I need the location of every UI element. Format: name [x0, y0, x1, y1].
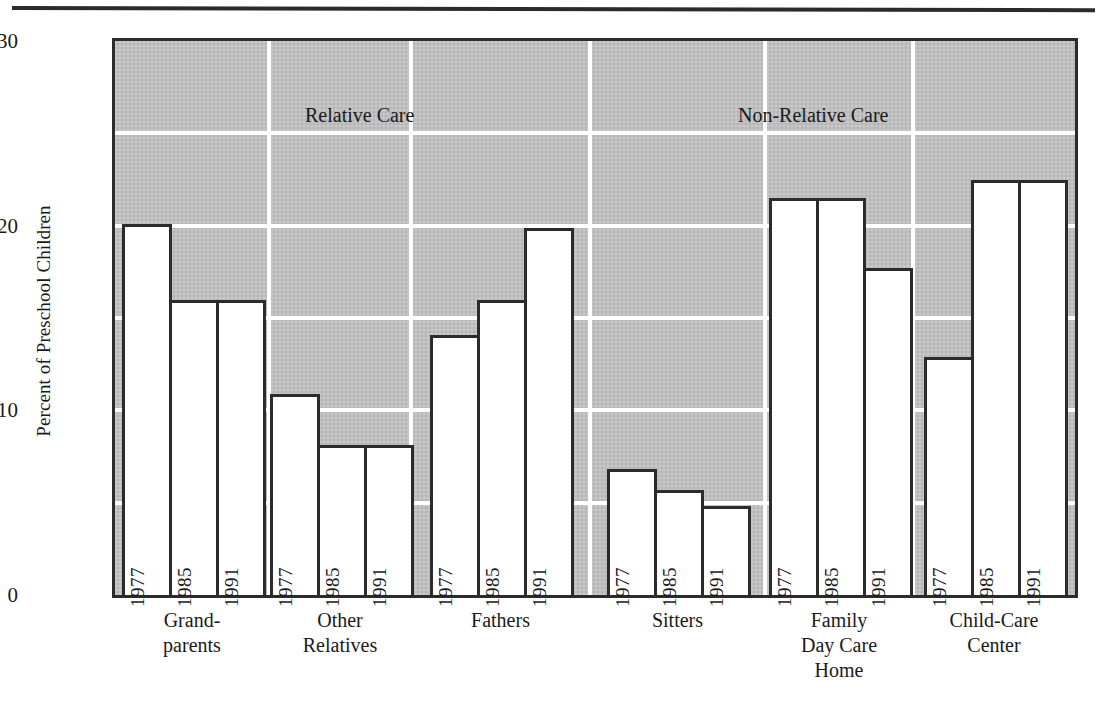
- section-caption-relative-care: Relative Care: [305, 104, 414, 127]
- x-axis-group-label-4: FamilyDay CareHome: [765, 608, 913, 683]
- bar-year-label: 1991: [869, 567, 888, 607]
- bar-5-1977: 1977: [924, 357, 974, 595]
- bar-3-1977: 1977: [607, 469, 657, 595]
- bar-year-label: 1991: [222, 567, 241, 607]
- x-axis-group-label-2: Fathers: [411, 608, 590, 633]
- bar-2-1991: 1991: [524, 228, 574, 595]
- bar-year-label: 1985: [323, 567, 342, 607]
- x-axis-group-label-line: Day Care: [765, 633, 913, 658]
- y-axis-tick-label-30: 30: [0, 31, 18, 52]
- bar-year-label: 1985: [483, 567, 502, 607]
- bar-2-1985: 1985: [477, 300, 527, 595]
- x-axis-group-label-line: Fathers: [411, 608, 590, 633]
- x-axis-group-label-1: OtherRelatives: [269, 608, 411, 658]
- bar-4-1977: 1977: [769, 198, 819, 595]
- bar-year-label: 1977: [775, 567, 794, 607]
- bar-year-label: 1977: [128, 567, 147, 607]
- bar-year-label: 1991: [707, 567, 726, 607]
- x-axis-group-label-line: Family: [765, 608, 913, 633]
- y-axis-tick-label-10: 10: [0, 400, 18, 421]
- x-axis-group-label-5: Child-CareCenter: [913, 608, 1075, 658]
- bar-3-1991: 1991: [701, 506, 751, 595]
- x-axis-group-label-line: Sitters: [590, 608, 765, 633]
- x-axis-group-label-line: Child-Care: [913, 608, 1075, 633]
- bar-year-label: 1985: [660, 567, 679, 607]
- section-caption-non-relative-care: Non-Relative Care: [738, 104, 889, 127]
- bar-year-label: 1985: [822, 567, 841, 607]
- bar-1-1985: 1985: [317, 445, 367, 595]
- bar-0-1991: 1991: [216, 300, 266, 595]
- bar-year-label: 1977: [276, 567, 295, 607]
- bar-year-label: 1991: [530, 567, 549, 607]
- vertical-gridline-3: [588, 41, 592, 595]
- bar-1-1991: 1991: [364, 445, 414, 595]
- y-axis-tick-label-0: 0: [0, 585, 18, 606]
- x-axis-group-label-0: Grand-parents: [115, 608, 269, 658]
- x-axis-group-label-line: Relatives: [269, 633, 411, 658]
- horizontal-gridline-25: [115, 131, 1075, 135]
- bar-year-label: 1985: [175, 567, 194, 607]
- bar-4-1985: 1985: [816, 198, 866, 595]
- x-axis-group-label-line: Grand-: [115, 608, 269, 633]
- bar-3-1985: 1985: [654, 490, 704, 595]
- bar-5-1985: 1985: [971, 180, 1021, 596]
- bar-0-1985: 1985: [169, 300, 219, 595]
- x-axis-group-label-line: parents: [115, 633, 269, 658]
- bar-year-label: 1985: [977, 567, 996, 607]
- horizontal-gridline-20: [115, 224, 1075, 228]
- bar-2-1977: 1977: [430, 335, 480, 595]
- x-axis-group-label-3: Sitters: [590, 608, 765, 633]
- bar-1-1977: 1977: [270, 394, 320, 595]
- bar-year-label: 1977: [930, 567, 949, 607]
- bar-0-1977: 1977: [122, 224, 172, 595]
- x-axis-group-label-line: Center: [913, 633, 1075, 658]
- bar-5-1991: 1991: [1018, 180, 1068, 596]
- bar-year-label: 1977: [613, 567, 632, 607]
- bar-year-label: 1991: [370, 567, 389, 607]
- x-axis-group-label-line: Other: [269, 608, 411, 633]
- bar-year-label: 1991: [1024, 567, 1043, 607]
- bar-4-1991: 1991: [863, 268, 913, 595]
- y-axis-tick-label-20: 20: [0, 215, 18, 236]
- bar-chart-figure: Percent of Preschool Children 3020100 19…: [0, 0, 1104, 706]
- x-axis-group-label-line: Home: [765, 658, 913, 683]
- plot-area: 1977198519911977198519911977198519911977…: [112, 38, 1078, 598]
- bar-year-label: 1977: [436, 567, 455, 607]
